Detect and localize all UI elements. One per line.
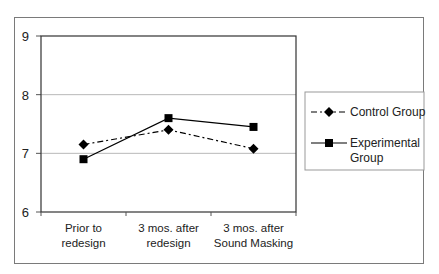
legend-marker-square xyxy=(325,139,333,147)
legend-label: Control Group xyxy=(350,105,426,119)
data-point-diamond xyxy=(164,125,174,135)
x-tick-label: 3 mos. after xyxy=(138,222,199,234)
legend-label: Experimental xyxy=(350,136,420,150)
y-tick-label: 9 xyxy=(22,29,29,44)
y-tick-label: 8 xyxy=(22,88,29,103)
x-tick-label: redesign xyxy=(146,237,190,249)
line-chart: 6789Prior toredesign3 mos. afterredesign… xyxy=(0,0,439,274)
x-tick-label: 3 mos. after xyxy=(223,222,284,234)
y-tick-label: 7 xyxy=(22,146,29,161)
x-tick-label: redesign xyxy=(61,237,105,249)
plot-area xyxy=(41,36,296,212)
data-point-square xyxy=(80,155,88,163)
x-tick-label: Prior to xyxy=(65,222,102,234)
data-point-diamond xyxy=(249,144,259,154)
x-tick-label: Sound Masking xyxy=(214,237,293,249)
legend-label: Group xyxy=(350,151,384,165)
data-point-square xyxy=(250,123,258,131)
y-tick-label: 6 xyxy=(22,205,29,220)
data-point-square xyxy=(165,114,173,122)
data-point-diamond xyxy=(79,140,89,150)
